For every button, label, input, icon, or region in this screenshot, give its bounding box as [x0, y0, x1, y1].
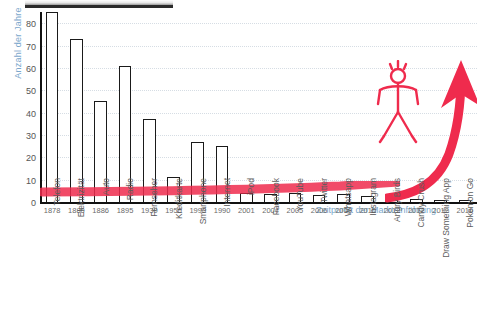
y-axis-tick: 80	[26, 19, 36, 29]
x-axis-category: Pokemon Go	[465, 178, 475, 278]
x-axis-tick: 2009Whatsapp	[330, 206, 356, 238]
x-axis-tick: 1950Kreditkarte	[161, 206, 187, 238]
title-underline	[25, 5, 173, 8]
x-axis-category: Facebook	[271, 178, 281, 278]
plot-area: 01020304050607080	[40, 12, 477, 202]
x-axis-category: Kreditkarte	[174, 178, 184, 278]
bar-series	[40, 12, 477, 202]
x-axis-tick: 1990Smartphone	[185, 206, 211, 238]
x-axis-category: Instagram	[368, 178, 378, 278]
x-axis-category: iPod	[246, 178, 256, 278]
x-axis-tick: 2016Pokemon Go	[452, 206, 478, 238]
x-axis-category: Radio	[125, 178, 135, 278]
x-axis-tick: 2001iPod	[233, 206, 259, 238]
x-axis-category: Auto	[101, 178, 111, 278]
x-axis-tick: 2005YouTube	[282, 206, 308, 238]
y-axis-tick: 30	[26, 131, 36, 141]
y-axis-label: Anzahl der Jahre	[13, 3, 23, 83]
x-axis-tick: 1990Internet	[209, 206, 235, 238]
y-axis-tick: 60	[26, 64, 36, 74]
x-axis-tick: 1930Fernseher	[136, 206, 162, 238]
x-axis-category: Angry Birds	[392, 178, 402, 278]
x-axis-tick: 2012Draw Something App	[428, 206, 454, 238]
x-axis-tick: 2012Angry Birds	[379, 206, 405, 238]
x-axis-tick: 1895Radio	[112, 206, 138, 238]
x-axis-category: Whatsapp	[343, 178, 353, 278]
y-axis-tick: 20	[26, 153, 36, 163]
x-axis-tick: 2012Candy Crush	[403, 206, 429, 238]
x-axis-category: Internet	[222, 178, 232, 278]
x-axis-category: Twitter	[319, 178, 329, 278]
x-axis-category: Draw Something App	[441, 178, 451, 278]
x-axis-tick: 1886Auto	[88, 206, 114, 238]
x-axis-category: YouTube	[295, 178, 305, 278]
y-axis-tick: 40	[26, 109, 36, 119]
x-axis-tick: 2004Facebook	[258, 206, 284, 238]
x-axis-category: Candy Crush	[416, 178, 426, 278]
x-axis-tick: 1878Telefon	[39, 206, 65, 238]
bar	[46, 12, 59, 202]
y-axis-tick: 0	[31, 198, 36, 208]
x-axis-category: Fernseher	[149, 178, 159, 278]
x-axis-category: Smartphone	[198, 178, 208, 278]
x-axis-tick-group: 1878Telefon1880Elektrizität1886Auto1895R…	[40, 206, 477, 324]
y-axis-line	[40, 12, 42, 204]
x-axis-tick: 1880Elektrizität	[63, 206, 89, 238]
x-axis-category: Telefon	[52, 178, 62, 278]
x-axis-tick: 2006Twitter	[306, 206, 332, 238]
x-axis-category: Elektrizität	[76, 178, 86, 278]
x-axis-tick: 2010Instagram	[355, 206, 381, 238]
y-axis-tick: 10	[26, 176, 36, 186]
chart-canvas: Anzahl der Jahre 01020304050607080	[0, 0, 491, 326]
y-axis-tick: 50	[26, 86, 36, 96]
y-axis-tick: 70	[26, 42, 36, 52]
